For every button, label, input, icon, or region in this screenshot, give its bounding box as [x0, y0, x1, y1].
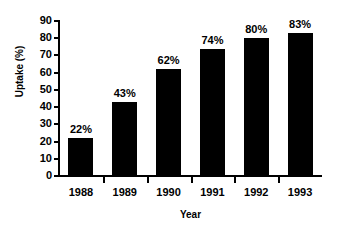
bar-value-label: 83%: [289, 18, 311, 30]
y-tick-label: 60: [40, 66, 52, 78]
bar-value-label: 43%: [114, 87, 136, 99]
y-tick-label: 90: [40, 14, 52, 26]
y-tick-mark: [54, 175, 59, 177]
y-tick-label: 10: [40, 152, 52, 164]
bar-value-label: 80%: [245, 23, 267, 35]
bar: 80%: [244, 38, 269, 176]
y-tick-label: 70: [40, 48, 52, 60]
y-tick-label: 50: [40, 83, 52, 95]
x-category-label: 1991: [200, 186, 224, 199]
bar-chart-figure: Uptake (%) 0102030405060708090 22%43%62%…: [0, 0, 339, 235]
x-category-label: 1990: [156, 186, 180, 199]
bar: 83%: [288, 33, 313, 176]
y-tick-label: 80: [40, 31, 52, 43]
x-axis-title: Year: [59, 209, 322, 220]
y-tick-label: 40: [40, 100, 52, 112]
x-tick-mark: [103, 177, 105, 183]
bar: 62%: [156, 69, 181, 176]
bar: 22%: [68, 138, 93, 176]
x-tick-mark: [278, 177, 280, 183]
bar-value-label: 22%: [70, 123, 92, 135]
x-tick-mark: [147, 177, 149, 183]
x-tick-mark: [191, 177, 193, 183]
y-tick-mark: [54, 89, 59, 91]
x-category-label: 1988: [69, 186, 93, 199]
x-category-label: 1992: [244, 186, 268, 199]
plot-area: 0102030405060708090 22%43%62%74%80%83%: [59, 21, 322, 176]
bar-value-label: 74%: [201, 34, 223, 46]
x-category-label: 1993: [288, 186, 312, 199]
y-tick-mark: [54, 158, 59, 160]
bar-value-label: 62%: [158, 54, 180, 66]
bar: 43%: [112, 102, 137, 176]
y-tick-mark: [54, 141, 59, 143]
y-tick-label: 20: [40, 135, 52, 147]
bar: 74%: [200, 49, 225, 176]
y-tick-mark: [54, 123, 59, 125]
y-tick-mark: [54, 20, 59, 22]
y-tick-mark: [54, 72, 59, 74]
y-tick-mark: [54, 54, 59, 56]
y-tick-label: 30: [40, 117, 52, 129]
y-tick-label: 0: [46, 169, 52, 181]
y-axis-title: Uptake (%): [14, 17, 25, 127]
x-category-label: 1989: [113, 186, 137, 199]
x-tick-mark: [234, 177, 236, 183]
y-tick-mark: [54, 37, 59, 39]
y-tick-mark: [54, 106, 59, 108]
